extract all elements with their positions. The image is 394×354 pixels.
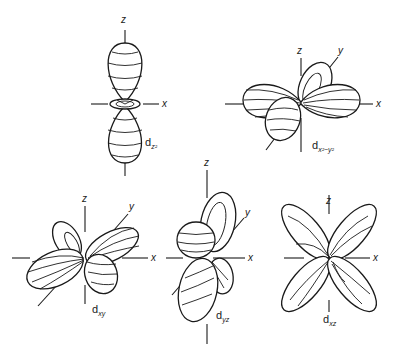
dz2-axis-z-label: z	[121, 15, 126, 25]
dz2-axis-x-label: x	[162, 99, 167, 109]
orbital-dx2-y2-drawing	[225, 57, 373, 152]
dyz-axis-z-label: z	[204, 158, 209, 168]
dx2y2-axis-z-label: z	[297, 46, 302, 56]
dxz-axis-z-label: z	[326, 196, 331, 206]
dxy-axis-y-label: y	[129, 202, 134, 212]
dx2y2-axis-x-label: x	[376, 99, 381, 109]
orbital-label-dz2: dz²	[145, 137, 157, 150]
orbital-dyz-drawing	[166, 170, 245, 344]
dyz-axis-x-label: x	[248, 253, 253, 263]
orbital-drawings	[0, 0, 394, 354]
orbital-label-dyz: dyz	[216, 310, 229, 323]
orbital-label-dx2-y2: dx²−y²	[312, 140, 334, 153]
dx2y2-axis-y-label: y	[338, 46, 343, 56]
dyz-axis-y-label: y	[245, 208, 250, 218]
orbital-dxz-drawing	[273, 195, 384, 319]
orbital-label-dxy: dxy	[92, 304, 105, 317]
dxy-axis-z-label: z	[82, 194, 87, 204]
d-orbitals-diagram: z x z y x z y x z y x z x dz² dx²−y² dxy…	[0, 0, 394, 354]
dxz-axis-x-label: x	[373, 253, 378, 263]
dxy-axis-x-label: x	[151, 253, 156, 263]
orbital-dxy-drawing	[12, 206, 148, 306]
orbital-label-dxz: dxz	[323, 314, 336, 327]
orbital-dz2-drawing	[91, 30, 159, 176]
